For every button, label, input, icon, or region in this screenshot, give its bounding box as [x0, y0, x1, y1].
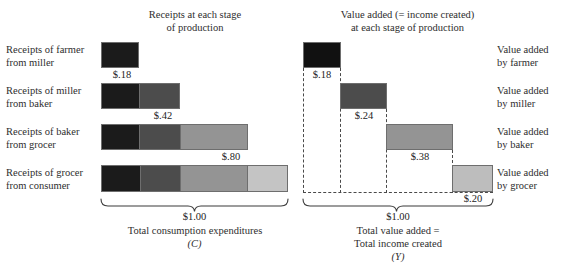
- segment-baker: [180, 125, 247, 149]
- left-row-label-miller: Receipts of miller from baker: [6, 85, 98, 110]
- left-brace: [101, 199, 288, 212]
- left-row-label-baker: Receipts of baker from grocer: [6, 126, 98, 151]
- segment-miller: [139, 84, 179, 108]
- right-row-label-miller: Value added by miller: [497, 85, 567, 110]
- receipts-value-baker: $.80: [213, 151, 249, 163]
- right-row-label-grocer: Value added by grocer: [497, 167, 567, 192]
- segment-farmer: [102, 43, 138, 67]
- value-added-label-grocer: $.20: [452, 193, 494, 205]
- left-total-caption: Total consumption expenditures: [86, 224, 304, 237]
- right-panel-header: Value added (= income created) at each s…: [295, 8, 520, 34]
- segment-baker: [180, 166, 247, 191]
- segment-grocer: [247, 166, 287, 191]
- right-total-value: $1.00: [303, 211, 493, 223]
- value-added-bar-farmer: [303, 42, 341, 68]
- receipts-bar-farmer: [101, 42, 139, 68]
- guide-line-left-edge: [303, 68, 304, 193]
- left-total-value: $1.00: [101, 211, 288, 223]
- left-total-symbol: (C): [101, 237, 288, 250]
- value-added-production-diagram: Receipts at each stage of production Rec…: [0, 0, 567, 274]
- value-added-label-baker: $.38: [387, 151, 453, 163]
- value-added-bar-miller: [340, 83, 387, 109]
- right-row-label-farmer: Value added by farmer: [497, 44, 567, 69]
- left-row-label-farmer: Receipts of farmer from miller: [6, 44, 98, 69]
- segment-farmer: [102, 166, 140, 191]
- value-added-bar-baker: [386, 124, 453, 150]
- value-added-label-miller: $.24: [341, 110, 387, 122]
- right-total-symbol: (Y): [303, 250, 493, 263]
- receipts-bar-grocer: [101, 165, 288, 192]
- segment-miller: [140, 166, 181, 191]
- segment-farmer: [102, 125, 139, 149]
- segment-farmer: [102, 84, 139, 108]
- right-total-caption: Total value added = Total income created: [303, 224, 493, 250]
- receipts-value-farmer: $.18: [104, 69, 140, 81]
- right-row-label-baker: Value added by baker: [497, 126, 567, 151]
- left-panel-header: Receipts at each stage of production: [101, 8, 289, 34]
- segment-miller: [139, 125, 179, 149]
- value-added-bar-grocer: [452, 165, 493, 192]
- value-added-label-farmer: $.18: [303, 69, 341, 81]
- receipts-bar-baker: [101, 124, 248, 150]
- receipts-value-miller: $.42: [145, 110, 181, 122]
- left-row-label-grocer: Receipts of grocer from consumer: [6, 167, 98, 192]
- receipts-bar-miller: [101, 83, 180, 109]
